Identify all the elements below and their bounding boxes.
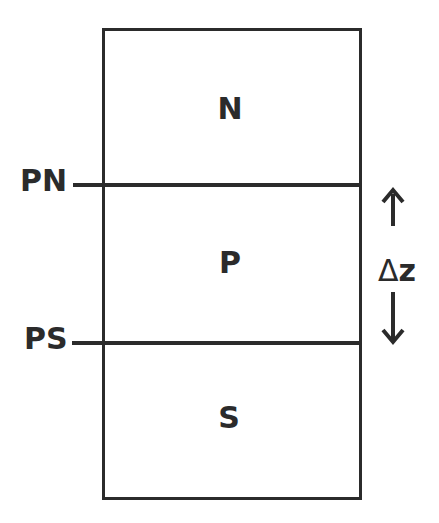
delta-z-label: Δz [378, 253, 416, 288]
z-variable: z [399, 253, 416, 288]
region-n-label: N [217, 91, 242, 126]
down-arrow-icon [381, 290, 405, 346]
pn-label: PN [20, 163, 67, 198]
region-p-label: P [219, 245, 241, 280]
ps-boundary-line [72, 341, 360, 345]
region-s-label: S [218, 400, 240, 435]
delta-symbol: Δ [378, 253, 399, 288]
pn-boundary-line [73, 183, 360, 187]
up-arrow-icon [381, 186, 405, 228]
ps-label: PS [24, 321, 68, 356]
